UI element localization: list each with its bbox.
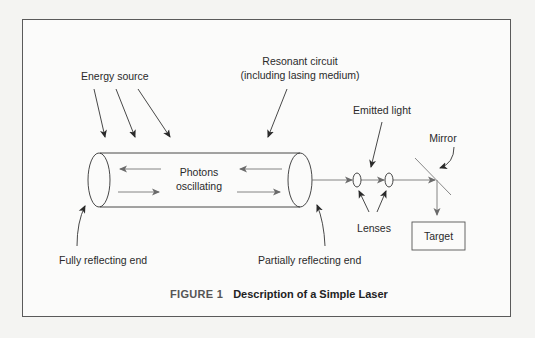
partially-reflecting-end-arrow <box>317 205 325 246</box>
mirror-label: Mirror <box>429 132 457 144</box>
lenses-label: Lenses <box>357 222 391 234</box>
fully-reflecting-end-arrow <box>77 206 85 246</box>
figure-caption: FIGURE 1 Description of a Simple Laser <box>170 284 389 301</box>
emitted-light-arrow <box>371 122 382 167</box>
photons-label-2: oscillating <box>176 180 222 192</box>
resonant-circuit-arrow <box>268 89 287 137</box>
energy-source-arrows <box>94 89 170 137</box>
target-label: Target <box>424 230 453 242</box>
partially-reflecting-end-ellipse <box>288 153 312 207</box>
partially-reflecting-end-label: Partially reflecting end <box>258 254 361 266</box>
photons-label-1: Photons <box>180 166 219 178</box>
fully-reflecting-end-ellipse <box>88 153 110 207</box>
laser-beam <box>312 180 437 215</box>
caption-number: FIGURE 1 <box>170 288 223 300</box>
mirror-line <box>415 158 451 195</box>
lens-1 <box>353 173 361 187</box>
energy-source-label: Energy source <box>81 70 149 82</box>
caption-title: Description of a Simple Laser <box>233 288 388 300</box>
mirror-arrow <box>440 147 454 168</box>
resonant-circuit-label-2: (including lasing medium) <box>240 69 359 81</box>
emitted-light-label: Emitted light <box>353 104 411 116</box>
lens-2 <box>385 173 393 187</box>
resonant-circuit-label-1: Resonant circuit <box>262 55 337 67</box>
laser-diagram: Energy source Resonant circuit (includin… <box>0 0 535 338</box>
lenses-arrows <box>359 191 386 212</box>
fully-reflecting-end-label: Fully reflecting end <box>59 254 147 266</box>
